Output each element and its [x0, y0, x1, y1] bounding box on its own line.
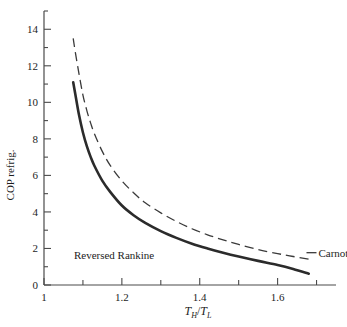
x-axis-ticks [44, 278, 317, 285]
y-tick-label: 4 [33, 206, 39, 218]
y-axis-title: COP refrig. [4, 149, 16, 200]
y-axis-ticks [44, 11, 51, 285]
x-axis-tick-labels: 11.21.41.6 [41, 291, 285, 303]
y-tick-label: 12 [27, 60, 38, 72]
y-tick-label: 2 [33, 242, 39, 254]
x-axis-title-text: TH/TL [185, 304, 213, 320]
x-tick-label: 1 [41, 291, 47, 303]
data-curves-group [73, 38, 309, 273]
x-axis-title: TH/TL [185, 304, 213, 320]
x-tick-label: 1.6 [271, 291, 285, 303]
x-tick-label: 1.4 [193, 291, 207, 303]
x-tick-label: 1.2 [115, 291, 129, 303]
chart-figure: 02468101214 11.21.41.6 Reversed RankineC… [0, 0, 347, 327]
y-tick-label: 0 [33, 279, 39, 291]
series-label-carnot: Carnot [318, 247, 347, 259]
series-curve-reversed-rankine [73, 82, 309, 273]
y-tick-label: 8 [33, 133, 39, 145]
x-axis-title-denominator-subscript: L [206, 311, 212, 320]
y-tick-label: 14 [27, 23, 39, 35]
chart-plot-area: 02468101214 11.21.41.6 Reversed RankineC… [0, 0, 347, 327]
y-tick-label: 10 [27, 96, 39, 108]
y-axis-tick-labels: 02468101214 [27, 23, 39, 291]
series-curve-carnot [73, 38, 309, 259]
series-label-reversed-rankine: Reversed Rankine [74, 249, 154, 261]
y-axis-title-text: COP refrig. [4, 149, 16, 200]
y-tick-label: 6 [33, 169, 39, 181]
